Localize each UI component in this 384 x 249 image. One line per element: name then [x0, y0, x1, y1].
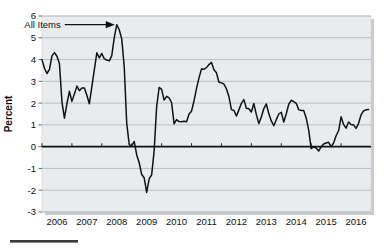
- y-tick-label: 2: [31, 98, 36, 109]
- y-tick-label: 1: [31, 119, 36, 130]
- x-tick-label: 2007: [76, 216, 97, 227]
- x-tick-label: 2012: [226, 216, 247, 227]
- x-tick-label: 2013: [256, 216, 277, 227]
- y-tick-label: 4: [31, 54, 36, 65]
- x-tick-label: 2015: [316, 216, 337, 227]
- source-underline: [10, 240, 78, 243]
- x-tick-label: 2010: [166, 216, 187, 227]
- plot-area: [42, 16, 371, 212]
- x-tick-label: 2014: [286, 216, 307, 227]
- plot-background: [42, 16, 371, 212]
- figure-container: -3-2-10123456 20062007200820092010201120…: [0, 0, 384, 249]
- y-tick-label: 0: [31, 141, 36, 152]
- x-tick-label: 2008: [106, 216, 127, 227]
- y-tick-label: -3: [28, 206, 36, 217]
- annotation-label: All Items: [24, 19, 61, 30]
- x-tick-label: 2016: [345, 216, 366, 227]
- line-chart: -3-2-10123456 20062007200820092010201120…: [0, 0, 384, 249]
- y-tick-label: -2: [28, 185, 36, 196]
- y-tick-label: 5: [31, 32, 36, 43]
- x-tick-label: 2006: [46, 216, 67, 227]
- y-tick-label: -1: [28, 163, 36, 174]
- y-tick-label: 3: [31, 76, 36, 87]
- x-tick-label: 2011: [196, 216, 216, 227]
- y-axis-title: Percent: [3, 95, 14, 132]
- x-tick-label: 2009: [136, 216, 157, 227]
